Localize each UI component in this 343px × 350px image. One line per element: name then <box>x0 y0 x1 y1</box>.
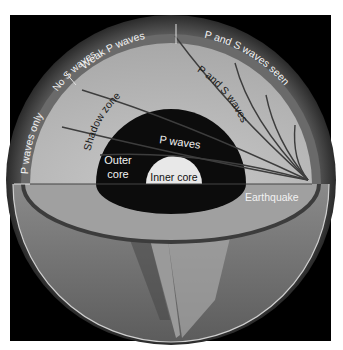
label-outer-core-2: core <box>107 168 128 180</box>
earth-diagram: P waves only No S waves Weak P waves P a… <box>0 0 343 350</box>
label-earthquake: Earthquake <box>245 191 299 203</box>
label-inner-core: Inner core <box>150 171 197 183</box>
label-outer-core-1: Outer <box>104 154 132 166</box>
